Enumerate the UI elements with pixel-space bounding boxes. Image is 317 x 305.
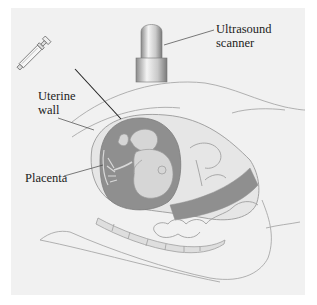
label-ultrasound-scanner: Ultrasound scanner [216,22,272,50]
ultrasound-scanner [136,25,167,83]
label-scanner-line1: Ultrasound [216,22,272,36]
label-placenta-line1: Placenta [25,171,67,185]
label-wall-line1: Uterine [38,89,75,103]
leader-line-scanner [164,30,214,45]
label-wall-line2: wall [38,103,75,117]
amniocentesis-figure: Ultrasound scanner Uterine wall Placenta [0,0,317,305]
label-placenta: Placenta [25,171,67,185]
leader-line-wall [58,118,94,130]
label-scanner-line2: scanner [216,36,272,50]
syringe-needle [75,69,121,119]
label-uterine-wall: Uterine wall [38,89,75,117]
